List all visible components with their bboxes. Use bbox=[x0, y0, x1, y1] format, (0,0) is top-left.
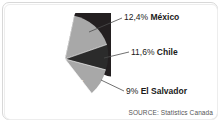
callout-el-salvador-name: El Salvador bbox=[141, 86, 187, 96]
callout-el-salvador-percent: 9% bbox=[126, 86, 138, 96]
callout-chile-name: Chile bbox=[157, 47, 178, 57]
chart-screenshot: 67% otros 12,4% México 11,6% Chile 9% El… bbox=[0, 0, 224, 125]
callout-mexico-name: México bbox=[150, 12, 179, 22]
pie-label-otros: 67% otros bbox=[43, 77, 84, 87]
callout-el-salvador: 9% El Salvador bbox=[126, 86, 187, 96]
pie-chart-svg bbox=[19, 13, 111, 105]
callout-chile: 11,6% Chile bbox=[131, 47, 178, 57]
callout-mexico-percent: 12,4% bbox=[124, 12, 148, 22]
callout-mexico: 12,4% México bbox=[124, 12, 179, 22]
pie-chart: 67% otros bbox=[19, 13, 111, 105]
source-note: SOURCE: Statistics Canada bbox=[128, 109, 213, 116]
callout-chile-percent: 11,6% bbox=[131, 47, 154, 57]
